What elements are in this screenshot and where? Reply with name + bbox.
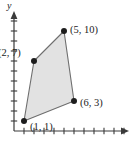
figure-container: y (1, 1)(2, 7)(5, 10)(6, 3)	[0, 0, 132, 146]
point-coordinate-label: (2, 7)	[0, 47, 21, 59]
point-coordinate-label: (5, 10)	[70, 24, 98, 36]
vertex-dot	[61, 28, 67, 34]
coordinate-plot: y (1, 1)(2, 7)(5, 10)(6, 3)	[0, 0, 132, 146]
vertex-dot	[31, 58, 37, 64]
y-axis-label: y	[6, 0, 12, 11]
quadrilateral-region	[24, 31, 74, 121]
vertex-dot	[71, 98, 77, 104]
vertex-dot	[21, 118, 27, 124]
x-axis-arrow-icon	[121, 128, 129, 135]
y-axis-arrow-icon	[11, 11, 18, 19]
point-coordinate-label: (6, 3)	[80, 97, 103, 109]
point-coordinate-label: (1, 1)	[30, 121, 53, 133]
